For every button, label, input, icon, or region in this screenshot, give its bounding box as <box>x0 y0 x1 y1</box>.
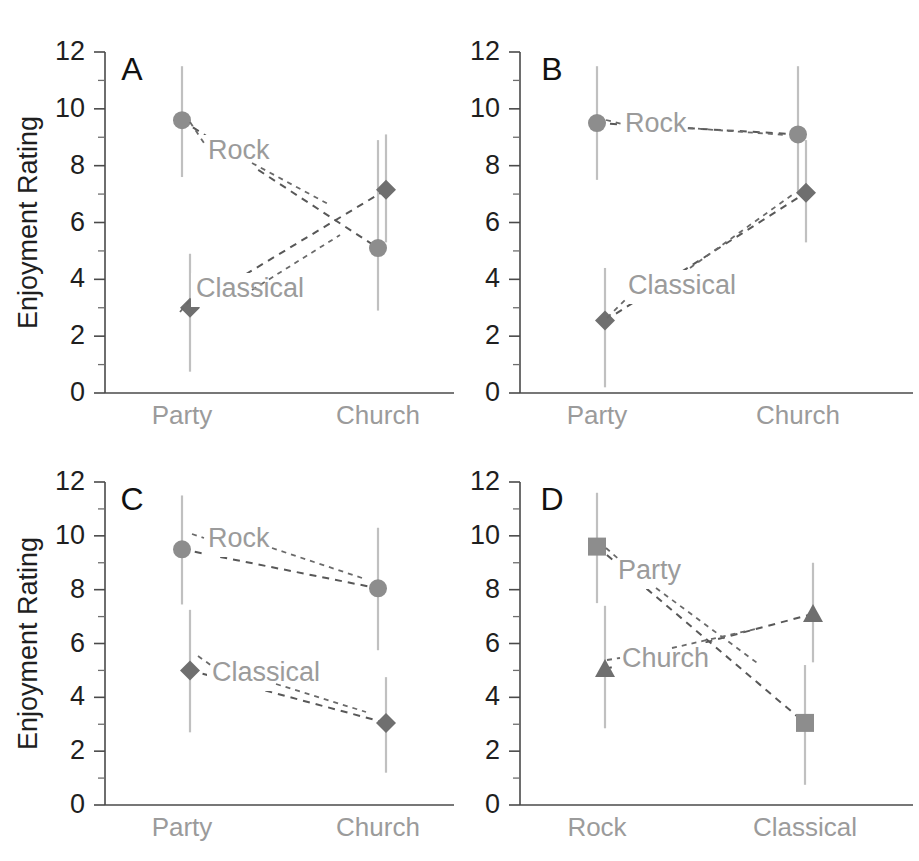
y-tick-label: 2 <box>70 735 85 765</box>
data-marker-circle <box>588 114 606 132</box>
series-label-church: Church <box>622 643 709 673</box>
panel-letter: D <box>540 481 563 517</box>
y-tick-label: 8 <box>485 574 500 604</box>
y-tick-label: 2 <box>485 735 500 765</box>
series-label-rock: Rock <box>208 135 270 165</box>
y-tick-label: 8 <box>485 150 500 180</box>
y-tick-label: 10 <box>55 520 85 550</box>
y-tick-label: 12 <box>470 36 500 66</box>
y-tick-label: 6 <box>70 628 85 658</box>
y-tick-label: 10 <box>470 93 500 123</box>
x-category-label: Church <box>336 400 420 430</box>
data-marker-triangle <box>803 604 823 622</box>
panel-letter: A <box>121 51 143 87</box>
y-axis-title: Enjoyment Rating <box>13 537 43 750</box>
panel-a: 024681012PartyChurchRockClassicalAEnjoym… <box>0 0 460 431</box>
data-marker-diamond <box>376 713 396 733</box>
y-tick-label: 12 <box>470 466 500 496</box>
data-marker-circle <box>369 239 387 257</box>
data-marker-diamond <box>595 311 615 331</box>
y-tick-label: 6 <box>70 207 85 237</box>
data-marker-circle <box>369 579 387 597</box>
series-label-classical: Classical <box>628 270 736 300</box>
series-label-classical: Classical <box>196 273 304 303</box>
panel-b: 024681012PartyChurchRockClassicalB <box>460 0 919 431</box>
panel-letter: C <box>120 481 143 517</box>
data-marker-triangle <box>595 659 615 677</box>
y-tick-label: 0 <box>485 789 500 819</box>
data-marker-diamond <box>180 660 200 680</box>
figure-root: 024681012PartyChurchRockClassicalAEnjoym… <box>0 0 919 861</box>
y-tick-label: 4 <box>70 681 85 711</box>
series-label-rock: Rock <box>208 523 270 553</box>
data-marker-square <box>796 714 814 732</box>
x-category-label: Church <box>756 400 840 430</box>
y-tick-label: 10 <box>470 520 500 550</box>
series-label-leader <box>252 163 330 205</box>
series-label-leader <box>192 534 204 538</box>
panel-letter: B <box>541 51 562 87</box>
y-tick-label: 6 <box>485 207 500 237</box>
data-marker-circle <box>173 111 191 129</box>
y-tick-label: 6 <box>485 628 500 658</box>
x-category-label: Rock <box>567 812 627 842</box>
series-label-rock: Rock <box>625 108 687 138</box>
y-tick-label: 2 <box>485 320 500 350</box>
y-tick-label: 4 <box>485 263 500 293</box>
y-axis-title: Enjoyment Rating <box>13 116 43 329</box>
y-tick-label: 12 <box>55 466 85 496</box>
panel-d: 024681012RockClassicalPartyChurchD <box>460 430 919 861</box>
data-marker-circle <box>789 125 807 143</box>
y-tick-label: 12 <box>55 36 85 66</box>
x-category-label: Party <box>152 812 213 842</box>
series-label-classical: Classical <box>212 657 320 687</box>
x-category-label: Classical <box>753 812 857 842</box>
y-tick-label: 2 <box>70 320 85 350</box>
x-category-label: Church <box>336 812 420 842</box>
series-label-leader <box>272 548 362 578</box>
y-tick-label: 8 <box>70 574 85 604</box>
y-tick-label: 0 <box>70 789 85 819</box>
y-tick-label: 4 <box>485 681 500 711</box>
series-label-leader <box>190 122 204 143</box>
y-tick-label: 10 <box>55 93 85 123</box>
y-tick-label: 0 <box>70 377 85 407</box>
y-tick-label: 8 <box>70 150 85 180</box>
y-tick-label: 0 <box>485 377 500 407</box>
x-category-label: Party <box>152 400 213 430</box>
series-label-leader <box>688 128 786 135</box>
series-label-party: Party <box>618 555 682 585</box>
data-marker-circle <box>173 540 191 558</box>
y-tick-label: 4 <box>70 263 85 293</box>
panel-c: 024681012PartyChurchRockClassicalCEnjoym… <box>0 430 460 861</box>
data-marker-square <box>588 538 606 556</box>
x-category-label: Party <box>567 400 628 430</box>
